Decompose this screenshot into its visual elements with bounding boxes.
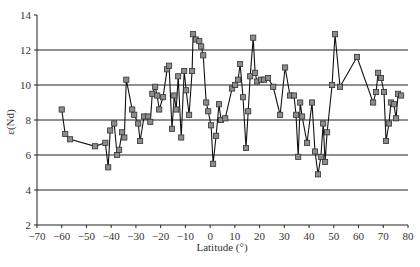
data-point-marker [150,91,155,96]
data-point-marker [305,140,310,145]
data-point-marker [386,121,391,126]
data-point-marker [296,154,301,159]
data-point-marker [354,54,359,59]
y-tick-label: 10 [20,79,32,91]
x-tick-label: −50 [78,230,96,242]
x-tick-label: −60 [53,230,71,242]
y-tick-label: 6 [26,149,32,161]
data-point-marker [325,130,330,135]
data-point-marker [122,135,127,140]
data-point-marker [153,84,158,89]
data-point-marker [115,152,120,157]
chart: 2468101214−70−60−50−40−30−20−10010203040… [0,0,420,267]
y-axis-title: ε(Nd) [4,109,17,135]
data-point-marker [371,100,376,105]
data-point-marker [283,65,288,70]
data-point-marker [300,114,305,119]
data-point-marker [381,89,386,94]
data-point-marker [106,165,111,170]
data-point-marker [337,84,342,89]
data-point-marker [120,130,125,135]
data-point-marker [223,116,228,121]
data-point-marker [248,74,253,79]
x-tick-label: 40 [304,230,316,242]
data-point-marker [216,102,221,107]
data-point-marker [63,131,68,136]
data-point-marker [190,68,195,73]
data-point-marker [318,154,323,159]
data-point-marker [312,149,317,154]
data-point-marker [179,135,184,140]
data-point-marker [243,145,248,150]
data-point-marker [293,112,298,117]
data-point-marker [271,84,276,89]
data-point-marker [68,137,73,142]
x-tick-label: 30 [279,230,291,242]
x-tick-label: −10 [177,230,195,242]
y-tick-label: 12 [20,44,31,56]
x-tick-label: −30 [127,230,145,242]
data-point-marker [246,109,251,114]
data-point-marker [238,61,243,66]
data-point-marker [199,44,204,49]
data-point-marker [391,102,396,107]
data-point-marker [112,121,117,126]
x-tick-label: 60 [353,230,365,242]
x-tick-label: 80 [403,230,415,242]
data-point-marker [130,107,135,112]
x-axis-title: Latitude (°) [196,241,247,254]
data-point-marker [265,75,270,80]
data-point-marker [233,82,238,87]
data-point-marker [155,93,160,98]
data-point-marker [124,77,129,82]
y-tick-label: 8 [26,114,32,126]
data-point-marker [138,138,143,143]
y-tick-label: 4 [26,184,32,196]
data-point-marker [169,126,174,131]
data-point-marker [383,138,388,143]
data-point-marker [184,88,189,93]
data-point-marker [176,74,181,79]
data-point-marker [332,32,337,37]
data-point-marker [376,70,381,75]
data-point-marker [187,112,192,117]
data-point-marker [291,93,296,98]
data-point-marker [136,121,141,126]
data-point-marker [399,93,404,98]
data-point-marker [374,89,379,94]
data-point-marker [315,172,320,177]
data-point-marker [201,53,206,58]
data-point-marker [161,95,166,100]
data-point-marker [309,100,314,105]
x-tick-label: −70 [28,230,46,242]
data-point-marker [253,70,258,75]
data-point-marker [148,119,153,124]
data-point-marker [378,75,383,80]
series-line [62,34,401,174]
x-tick-label: −40 [103,230,121,242]
data-point-marker [197,39,202,44]
data-point-marker [240,95,245,100]
data-point-marker [174,107,179,112]
data-point-marker [236,77,241,82]
x-tick-label: −20 [152,230,170,242]
data-point-marker [209,123,214,128]
data-point-marker [103,140,108,145]
data-point-marker [204,100,209,105]
data-point-marker [251,35,256,40]
x-tick-label: 70 [378,230,390,242]
data-point-marker [278,112,283,117]
data-point-marker [394,116,399,121]
data-point-marker [182,68,187,73]
data-point-marker [167,63,172,68]
data-point-marker [211,161,216,166]
data-point-marker [172,93,177,98]
data-point-marker [323,159,328,164]
data-point-marker [59,107,64,112]
data-point-marker [157,107,162,112]
x-tick-label: 20 [254,230,266,242]
data-point-marker [206,109,211,114]
data-point-marker [321,121,326,126]
data-point-marker [146,114,151,119]
data-point-marker [108,128,113,133]
